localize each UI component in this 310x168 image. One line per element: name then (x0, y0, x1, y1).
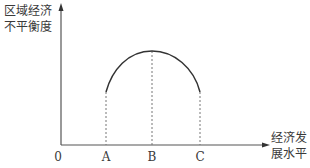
tick-c: C (195, 150, 204, 164)
tick-a: A (102, 150, 111, 164)
x-axis-label-line-2: 展水平 (271, 146, 307, 162)
x-axis-arrow-icon (262, 143, 270, 148)
inverted-u-curve (106, 51, 200, 92)
x-axis-label-line-1: 经济发 (271, 130, 307, 146)
y-axis-arrow-icon (59, 3, 64, 11)
x-axis-label: 经济发 展水平 (271, 130, 307, 162)
y-axis-label: 区域经济 不平衡度 (4, 3, 52, 35)
origin-label: 0 (54, 150, 62, 164)
y-axis-label-line-1: 区域经济 (4, 3, 52, 19)
tick-b: B (148, 150, 157, 164)
y-axis-label-line-2: 不平衡度 (4, 19, 52, 35)
